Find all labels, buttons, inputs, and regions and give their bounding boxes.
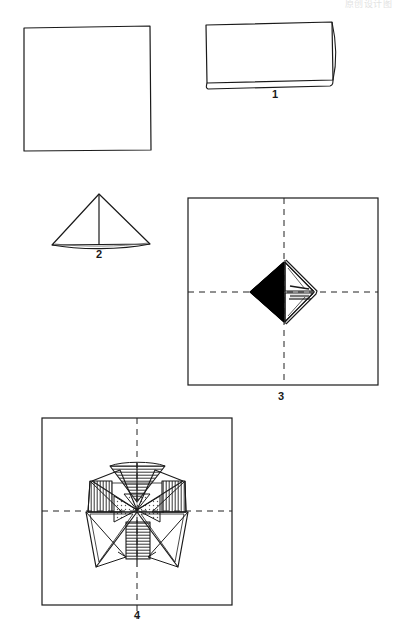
- step-3-diamond-on-square: [188, 198, 378, 385]
- step-3-diamond-module: [250, 260, 317, 324]
- step-label-4: 4: [127, 609, 147, 619]
- step-label-2: 2: [89, 248, 109, 260]
- step-label-1: 1: [265, 88, 285, 100]
- step-1-folded-rectangle: [206, 22, 336, 89]
- step-2-folded-triangle: [52, 194, 150, 249]
- step-4-pinwheel-assembly: [42, 418, 232, 619]
- step-4-pinwheel-module: [86, 462, 188, 567]
- diagram-page: 原创设计图: [0, 0, 396, 619]
- origami-diagram-canvas: [0, 0, 396, 619]
- step-0-plain-square: [24, 26, 151, 151]
- step-label-3: 3: [271, 390, 291, 402]
